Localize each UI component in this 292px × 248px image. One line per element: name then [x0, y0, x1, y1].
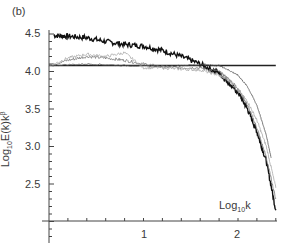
- y-tick-label: 4.5: [25, 27, 40, 39]
- x-axis-label: Log10k: [219, 199, 251, 213]
- series-line: [54, 34, 276, 211]
- data-series: [49, 34, 276, 211]
- y-tick-label: 3.5: [25, 103, 40, 115]
- x-tick-label: 2: [234, 228, 240, 240]
- series-line: [49, 52, 276, 188]
- y-tick-label: 4.0: [25, 65, 40, 77]
- series-line: [49, 64, 271, 158]
- x-tick-label: 1: [141, 228, 147, 240]
- y-tick-label: 3.0: [25, 140, 40, 152]
- y-tick-label: 2.5: [25, 178, 40, 190]
- y-axis-label: Log10E(k)kβ: [0, 111, 13, 167]
- panel-label: (b): [12, 5, 25, 17]
- series-line: [49, 56, 276, 199]
